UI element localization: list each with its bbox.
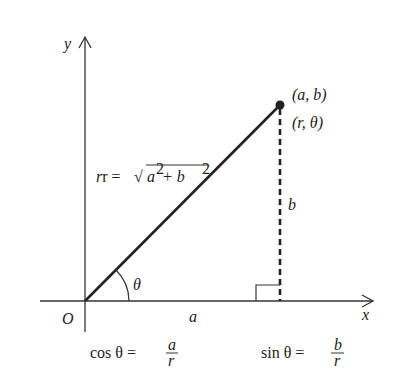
svg-text:a: a	[147, 168, 155, 185]
sqrt-icon: √	[134, 168, 143, 185]
svg-text:a: a	[168, 336, 176, 353]
polar-point-label: (r, θ)	[292, 114, 323, 132]
svg-text:cos θ =: cos θ =	[90, 344, 136, 361]
origin-label: O	[62, 310, 74, 327]
svg-text:sin θ =: sin θ =	[261, 344, 304, 361]
y-axis-label: y	[62, 35, 72, 53]
svg-text:2: 2	[202, 160, 210, 177]
angle-label: θ	[133, 276, 141, 293]
angle-arc	[116, 270, 129, 301]
cos-formula: cos θ = a r	[90, 336, 178, 369]
svg-text:b: b	[334, 336, 342, 353]
vertical-segment-label: b	[288, 196, 296, 213]
svg-text:rr =: rr =	[96, 168, 121, 185]
right-angle-marker	[256, 285, 280, 301]
horizontal-segment-label: a	[189, 308, 197, 325]
x-axis-label: x	[361, 306, 369, 323]
radius-formula: rr = √ a 2 + b 2	[96, 160, 210, 185]
cartesian-point-label: (a, b)	[292, 86, 327, 104]
sin-formula: sin θ = b r	[261, 336, 344, 369]
svg-text:r: r	[168, 352, 175, 369]
point-marker	[276, 101, 285, 110]
polar-coordinates-diagram: y x O θ a b (a, b) (r, θ) rr = √ a 2 + b…	[0, 0, 396, 384]
radius-line	[85, 105, 280, 301]
svg-text:r: r	[334, 352, 341, 369]
svg-text:+ b: + b	[162, 168, 185, 185]
